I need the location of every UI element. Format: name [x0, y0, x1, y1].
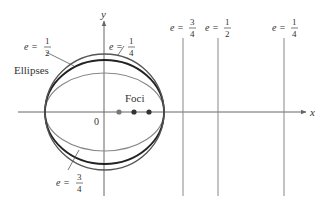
svg-text:e =: e = — [109, 41, 123, 52]
foci-label: Foci — [125, 92, 145, 104]
label-e-half-ellipse: e = 1 2 — [24, 36, 51, 58]
svg-text:4: 4 — [292, 29, 297, 39]
svg-text:e =: e = — [56, 177, 70, 188]
label-e-three-quarter-ellipse: e = 3 4 — [56, 172, 83, 194]
svg-text:1: 1 — [129, 36, 134, 46]
origin-label: 0 — [94, 116, 99, 127]
svg-text:e =: e = — [205, 22, 219, 33]
svg-text:2: 2 — [45, 48, 50, 58]
svg-text:1: 1 — [45, 36, 50, 46]
svg-text:4: 4 — [77, 184, 82, 194]
svg-text:4: 4 — [129, 48, 134, 58]
svg-text:4: 4 — [190, 29, 195, 39]
y-axis-label: y — [100, 8, 106, 20]
ellipse-eccentricity-diagram: x y 0 Foci Ellipses e = 1 2 e = 1 4 e = … — [0, 0, 328, 206]
x-axis-label: x — [309, 106, 315, 118]
focus-dot-e-half — [131, 109, 136, 114]
ellipses-label: Ellipses — [14, 64, 49, 76]
svg-text:e =: e = — [272, 22, 286, 33]
label-directrix-half: e = 1 2 — [205, 17, 231, 39]
leader-e-three-quarter — [68, 150, 79, 170]
svg-text:3: 3 — [77, 172, 82, 182]
focus-dot-e-three-quarter — [146, 109, 151, 114]
svg-text:3: 3 — [190, 17, 195, 27]
svg-text:1: 1 — [292, 17, 297, 27]
label-directrix-quarter: e = 1 4 — [272, 17, 298, 39]
svg-text:e =: e = — [170, 22, 184, 33]
leader-e-half — [46, 52, 74, 66]
focus-dot-e-quarter — [116, 109, 121, 114]
svg-text:2: 2 — [225, 29, 230, 39]
svg-text:e =: e = — [24, 41, 38, 52]
svg-text:1: 1 — [225, 17, 230, 27]
label-directrix-three-quarter: e = 3 4 — [170, 17, 196, 39]
